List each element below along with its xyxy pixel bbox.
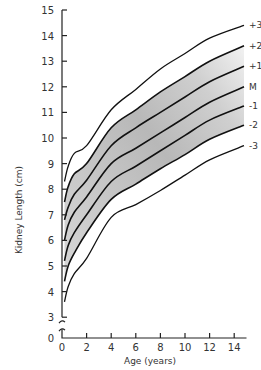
x-tick-label: 14 (228, 342, 241, 353)
curve-labels: +3+2+1M-1-2-3 (249, 20, 261, 150)
y-tick-label: 6 (48, 235, 54, 246)
y-tick-label: 10 (41, 133, 54, 144)
y-tick-label: 4 (48, 287, 54, 298)
shaded-band (65, 46, 245, 282)
y-tick-label: 13 (41, 56, 54, 67)
x-tick-label: 6 (133, 342, 139, 353)
x-tick-label: 4 (108, 342, 114, 353)
curve-label: -3 (249, 141, 258, 151)
y-tick-label: 7 (48, 210, 54, 221)
curve-label: +2 (249, 41, 261, 51)
y-axis-title: Kidney Length (cm) (14, 166, 24, 254)
y-tick-label: 0 (48, 333, 54, 344)
y-tick-label: 15 (41, 5, 54, 16)
y-tick-label: 11 (41, 107, 54, 118)
curve-label: -1 (249, 101, 258, 111)
x-axis-title: Age (years) (124, 356, 176, 366)
y-tick-label: 3 (48, 312, 54, 323)
y-tick-label: 9 (48, 159, 54, 170)
y-tick-label: 14 (41, 31, 54, 42)
x-tick-label: 0 (59, 342, 65, 353)
curve-label: +3 (249, 20, 261, 30)
y-tick-label: 12 (41, 82, 54, 93)
curve-label: -2 (249, 120, 258, 130)
x-tick-label: 8 (157, 342, 163, 353)
y-tick-label: 5 (48, 261, 54, 272)
kidney-length-chart: +3+2+1M-1-2-3 03456789101112131415024681… (0, 0, 261, 370)
x-tick-label: 12 (203, 342, 216, 353)
x-tick-label: 10 (179, 342, 192, 353)
shaded-normal-band (65, 46, 245, 282)
axis-break (59, 321, 65, 323)
y-tick-label: 8 (48, 184, 54, 195)
curve-label: +1 (249, 61, 261, 71)
curve-label: M (249, 82, 257, 92)
x-tick-label: 2 (83, 342, 89, 353)
